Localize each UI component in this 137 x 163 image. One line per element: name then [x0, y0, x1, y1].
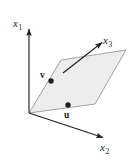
spanned-plane [29, 50, 126, 113]
point-v-dot [48, 78, 53, 83]
vector-label-u: u [64, 111, 69, 121]
axis-label-x2: x2 [100, 142, 109, 155]
figure-container: x1 x2 x3 v u [0, 0, 137, 163]
point-u-dot [65, 102, 70, 107]
axis-label-x2-sub: 2 [105, 147, 109, 156]
axis-label-x1: x1 [13, 18, 22, 31]
axis-label-x3: x3 [103, 35, 112, 48]
axis-label-x1-sub: 1 [18, 23, 22, 32]
vector-label-v: v [40, 71, 45, 81]
axis-label-x3-sub: 3 [108, 40, 112, 49]
